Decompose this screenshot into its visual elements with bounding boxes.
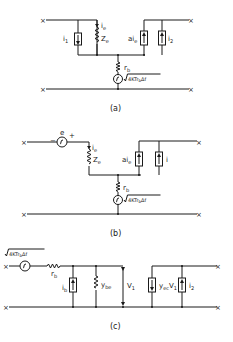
svg-text:×: ×	[196, 139, 202, 147]
caption-c: (c)	[110, 322, 121, 331]
svg-text:V1: V1	[127, 282, 135, 291]
svg-text:Ze: Ze	[101, 35, 109, 44]
svg-text:ie: ie	[101, 22, 106, 31]
svg-text:aie: aie	[122, 156, 131, 165]
svg-text:+: +	[69, 132, 75, 140]
svg-text:rb: rb	[124, 64, 130, 73]
svg-text:−: −	[50, 137, 56, 145]
terminal-a-bl: ×	[40, 86, 46, 94]
voltage-source-e	[57, 137, 67, 147]
circuit-diagram: × × × × i1 ie Ze aie i2 rb 4KTrbΔf	[0, 0, 233, 342]
svg-text:rb: rb	[51, 270, 57, 279]
svg-text:ybe: ybe	[101, 281, 111, 290]
svg-text:4KTrbΔf: 4KTrbΔf	[128, 197, 146, 204]
circuit-a: × × × × i1 ie Ze aie i2 rb 4KTrbΔf	[40, 17, 194, 113]
noise-source-icon	[114, 75, 123, 84]
svg-text:4KTrbΔf: 4KTrbΔf	[128, 76, 146, 83]
svg-text:i1: i1	[63, 35, 68, 44]
svg-text:e: e	[60, 129, 64, 137]
svg-text:×: ×	[215, 304, 221, 312]
terminal-a-br: ×	[188, 86, 194, 94]
circuit-b: × × × × − e + ie Ze aie i rb 4KTrbΔf (b)	[21, 129, 202, 238]
svg-text:Ze: Ze	[93, 156, 101, 165]
arrow-ie-icon	[95, 24, 99, 27]
caption-a: (a)	[110, 104, 121, 113]
svg-text:4KTrbΔf: 4KTrbΔf	[9, 251, 27, 258]
resistor-rb	[116, 62, 120, 72]
svg-text:aie: aie	[128, 35, 137, 44]
svg-text:rb: rb	[123, 184, 129, 193]
terminal-a-tl: ×	[40, 17, 46, 25]
svg-text:yecV1: yecV1	[159, 282, 177, 291]
svg-text:×: ×	[196, 211, 202, 219]
svg-text:i2: i2	[189, 282, 194, 291]
svg-text:ib: ib	[62, 284, 67, 293]
svg-text:i2: i2	[168, 35, 173, 44]
svg-text:×: ×	[21, 211, 27, 219]
caption-b: (b)	[110, 229, 121, 238]
svg-text:×: ×	[215, 263, 221, 271]
circuit-c: × × × × 4KTrbΔf rb ib ybe V1 yecV1 i2 (c…	[3, 249, 221, 331]
svg-text:i: i	[166, 156, 168, 164]
terminal-a-tr: ×	[188, 17, 194, 25]
svg-text:×: ×	[3, 263, 9, 271]
svg-text:×: ×	[21, 139, 27, 147]
svg-text:ie: ie	[92, 144, 97, 153]
svg-text:×: ×	[3, 304, 9, 312]
